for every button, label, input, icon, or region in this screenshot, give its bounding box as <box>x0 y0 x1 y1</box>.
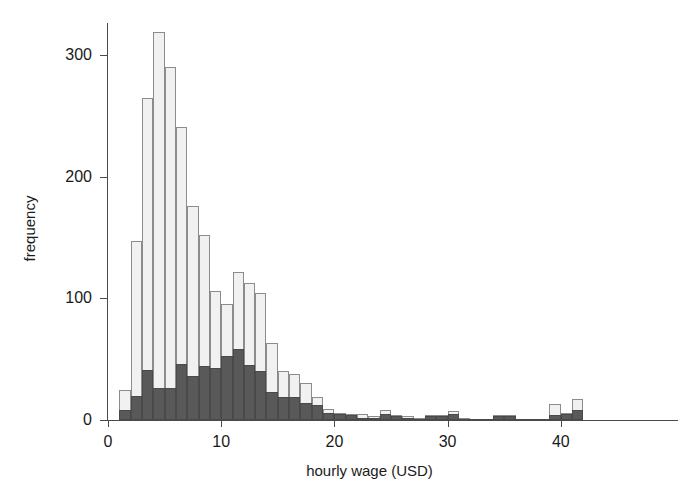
histogram-bar-subgroup <box>244 365 255 420</box>
histogram-bar-subgroup <box>176 364 187 420</box>
y-tick-label: 100 <box>46 290 92 306</box>
histogram-bar-subgroup <box>119 410 130 420</box>
histogram-bar-subgroup <box>131 396 142 420</box>
histogram-bar-total <box>153 32 164 420</box>
histogram-bar-subgroup <box>323 413 334 420</box>
y-tick-mark <box>100 55 107 56</box>
histogram-bar-subgroup <box>210 368 221 420</box>
x-tick-mark <box>334 421 335 427</box>
y-tick-label: 300 <box>46 47 92 63</box>
x-tick-label: 20 <box>304 434 364 450</box>
histogram-bar-subgroup <box>233 349 244 420</box>
y-tick-label: 200 <box>46 169 92 185</box>
histogram-bar-subgroup <box>199 366 210 420</box>
histogram-bar-subgroup <box>153 388 164 420</box>
y-axis-title: frequency <box>21 169 38 289</box>
y-tick-mark <box>100 298 107 299</box>
x-tick-label: 40 <box>531 434 591 450</box>
histogram-bar-subgroup <box>289 397 300 420</box>
histogram-bar-subgroup <box>312 405 323 420</box>
histogram-bar-subgroup <box>266 392 277 420</box>
x-tick-label: 0 <box>78 434 138 450</box>
histogram-bar-total <box>165 67 176 420</box>
histogram-bar-subgroup <box>187 376 198 420</box>
histogram-bar-total <box>131 241 142 420</box>
x-axis-line <box>101 420 678 421</box>
y-tick-mark <box>100 177 107 178</box>
histogram-bar-subgroup <box>278 397 289 420</box>
histogram-bar-subgroup <box>165 388 176 420</box>
x-axis-title: hourly wage (USD) <box>0 462 699 479</box>
plot-area: 0100200300 010203040 frequency hourly wa… <box>0 0 699 498</box>
histogram-bar-subgroup <box>142 370 153 420</box>
y-tick-mark <box>100 420 107 421</box>
histogram-bar-subgroup <box>221 356 232 420</box>
x-tick-label: 10 <box>191 434 251 450</box>
x-tick-mark <box>108 421 109 427</box>
histogram-bar-subgroup <box>255 371 266 420</box>
x-tick-mark <box>448 421 449 427</box>
histogram-bar-subgroup <box>300 403 311 420</box>
histogram-bar-subgroup <box>572 410 583 420</box>
x-tick-mark <box>221 421 222 427</box>
histogram-figure: 0100200300 010203040 frequency hourly wa… <box>0 0 699 498</box>
x-tick-mark <box>561 421 562 427</box>
y-axis-line <box>107 23 108 421</box>
x-tick-label: 30 <box>418 434 478 450</box>
y-tick-label: 0 <box>46 412 92 428</box>
